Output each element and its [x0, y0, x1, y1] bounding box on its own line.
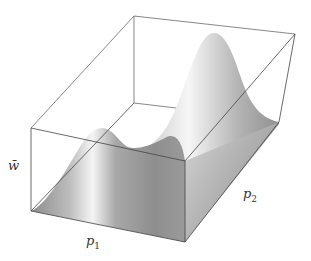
z-axis-label: w̄ [8, 158, 19, 173]
surface-low-peak [31, 128, 185, 242]
plot-canvas [0, 0, 311, 261]
x-axis-label: p1 [86, 233, 100, 251]
surface-plot: w̄ p1 p2 [0, 0, 311, 261]
y-axis-label: p2 [243, 186, 257, 204]
